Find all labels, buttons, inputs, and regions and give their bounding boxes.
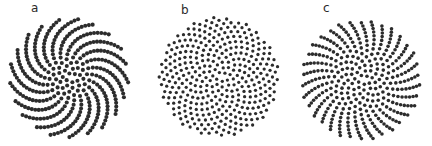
floret-dot bbox=[227, 61, 230, 64]
floret-dot bbox=[205, 101, 208, 104]
floret-dot bbox=[160, 83, 163, 86]
floret-dot bbox=[82, 53, 86, 57]
floret-dot bbox=[396, 88, 400, 92]
floret-dot bbox=[356, 56, 360, 60]
floret-dot bbox=[404, 87, 408, 91]
panel-label-b: b bbox=[181, 4, 189, 16]
floret-dot bbox=[67, 72, 71, 76]
floret-dot bbox=[370, 76, 374, 80]
floret-dot bbox=[250, 118, 253, 121]
floret-dot bbox=[183, 109, 186, 112]
floret-dot bbox=[320, 102, 324, 106]
floret-dot bbox=[13, 99, 17, 103]
floret-dot bbox=[215, 77, 218, 80]
phyllotaxis-figure-canvas bbox=[0, 0, 432, 146]
floret-dot bbox=[339, 62, 343, 66]
floret-dot bbox=[404, 71, 408, 75]
floret-dot bbox=[321, 83, 325, 87]
floret-dot bbox=[213, 54, 216, 57]
floret-dot bbox=[28, 115, 32, 119]
floret-dot bbox=[368, 81, 372, 85]
floret-dot bbox=[164, 66, 167, 69]
floret-dot bbox=[369, 64, 373, 68]
floret-dot bbox=[50, 88, 54, 92]
floret-dot bbox=[271, 75, 274, 78]
floret-dot bbox=[259, 99, 262, 102]
floret-dot bbox=[310, 89, 314, 93]
floret-dot bbox=[318, 76, 322, 80]
floret-dot bbox=[243, 31, 246, 34]
floret-dot bbox=[224, 100, 227, 103]
floret-dot bbox=[238, 35, 241, 38]
floret-dot bbox=[333, 75, 337, 79]
floret-dot bbox=[251, 107, 254, 110]
floret-dot bbox=[324, 46, 328, 50]
floret-dot bbox=[183, 104, 186, 107]
floret-dot bbox=[206, 107, 209, 110]
floret-dot bbox=[347, 96, 351, 100]
floret-dot bbox=[211, 127, 214, 130]
floret-dot bbox=[346, 124, 350, 128]
floret-dot bbox=[79, 103, 83, 107]
floret-dot bbox=[338, 123, 342, 127]
floret-dot bbox=[325, 69, 329, 73]
floret-dot bbox=[382, 81, 386, 85]
floret-dot bbox=[207, 132, 210, 135]
floret-dot bbox=[256, 36, 259, 39]
floret-dot bbox=[326, 38, 330, 42]
floret-dot bbox=[323, 99, 327, 103]
floret-dot bbox=[113, 94, 117, 98]
floret-dot bbox=[195, 108, 198, 111]
floret-dot bbox=[167, 43, 170, 46]
floret-dot bbox=[241, 76, 244, 79]
floret-dot bbox=[265, 109, 268, 112]
floret-dot bbox=[250, 33, 253, 36]
floret-dot bbox=[367, 114, 371, 118]
floret-dot bbox=[38, 90, 42, 94]
floret-dot bbox=[46, 83, 50, 87]
floret-dot bbox=[314, 44, 318, 48]
floret-dot bbox=[353, 110, 357, 114]
floret-dot bbox=[389, 55, 393, 59]
floret-dot bbox=[8, 81, 12, 85]
floret-dot bbox=[237, 57, 240, 60]
floret-dot bbox=[227, 131, 230, 134]
floret-dot bbox=[184, 99, 187, 102]
floret-dot bbox=[25, 36, 29, 40]
floret-dot bbox=[21, 113, 25, 117]
floret-dot bbox=[411, 95, 415, 99]
floret-dot bbox=[395, 102, 399, 106]
floret-dot bbox=[45, 98, 49, 102]
floret-dot bbox=[381, 102, 385, 106]
floret-dot bbox=[24, 47, 28, 51]
floret-dot bbox=[65, 83, 69, 87]
floret-dot bbox=[361, 96, 365, 100]
floret-dot bbox=[234, 122, 237, 125]
floret-dot bbox=[223, 72, 226, 75]
floret-dot bbox=[240, 26, 243, 29]
floret-dot bbox=[392, 69, 396, 73]
floret-dot bbox=[105, 111, 109, 115]
floret-dot bbox=[307, 52, 311, 56]
floret-dot bbox=[354, 124, 358, 128]
floret-dot bbox=[88, 107, 92, 111]
floret-dot bbox=[225, 56, 228, 59]
floret-dot bbox=[355, 127, 359, 131]
floret-dot bbox=[325, 55, 329, 59]
floret-dot bbox=[350, 73, 354, 77]
floret-dot bbox=[251, 49, 254, 52]
floret-dot bbox=[66, 96, 70, 100]
floret-dot bbox=[205, 89, 208, 92]
floret-dot bbox=[86, 96, 90, 100]
floret-dot bbox=[189, 106, 192, 109]
floret-dot bbox=[248, 101, 251, 104]
floret-dot bbox=[221, 80, 224, 83]
floret-dot bbox=[237, 99, 240, 102]
floret-dot bbox=[382, 96, 386, 100]
floret-dot bbox=[164, 59, 167, 62]
floret-dot bbox=[52, 56, 56, 60]
floret-dot bbox=[175, 91, 178, 94]
floret-dot bbox=[389, 34, 393, 38]
floret-dot bbox=[329, 63, 333, 67]
floret-dot bbox=[245, 124, 248, 127]
